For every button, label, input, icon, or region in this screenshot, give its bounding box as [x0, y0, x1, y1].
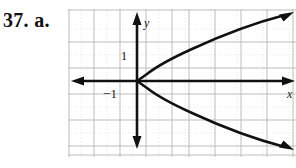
coordinate-plane-svg: y x 1 −1 — [68, 9, 296, 157]
grid-background — [68, 9, 296, 157]
x-axis-label: x — [286, 87, 293, 101]
tick-label-x-negative-one: −1 — [103, 86, 117, 101]
tick-label-y-one: 1 — [121, 48, 128, 63]
problem-number-label: 37. a. — [3, 8, 50, 32]
figure-page: 37. a. — [0, 0, 296, 168]
graph-figure: y x 1 −1 — [68, 9, 296, 157]
y-axis-label: y — [143, 16, 150, 30]
